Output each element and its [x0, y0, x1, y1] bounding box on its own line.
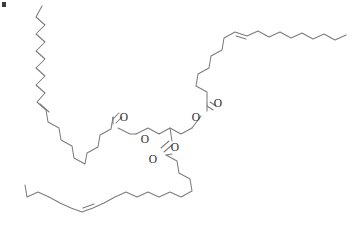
carbonyl-sn2-line2 [161, 141, 169, 148]
molecule-figure: O O O O O O [0, 0, 359, 227]
oxygen-label-carbonyl-sn3: O [214, 97, 222, 109]
oxygen-label-carbonyl-sn1: O [120, 111, 128, 123]
oxygen-label-ester-sn2: O [171, 141, 179, 153]
carbonyl-sn3-line1 [207, 106, 213, 110]
chemical-structure-diagram: O O O O O O [0, 0, 359, 227]
double-bond-sn1-inner [40, 104, 49, 112]
oxygen-label-ester-sn1: O [141, 133, 149, 145]
chain-sn2-lower [25, 155, 192, 212]
chain-sn3-upper-right [196, 31, 346, 104]
oxygen-label-ester-sn3: O [192, 111, 200, 123]
oxygen-label-carbonyl-sn2: O [149, 153, 157, 165]
double-bond-sn2-inner [83, 204, 94, 208]
double-bond-sn3-inner [236, 36, 246, 39]
chain-sn1-upper-left [36, 6, 113, 164]
carbonyl-sn1-line1 [113, 113, 119, 119]
